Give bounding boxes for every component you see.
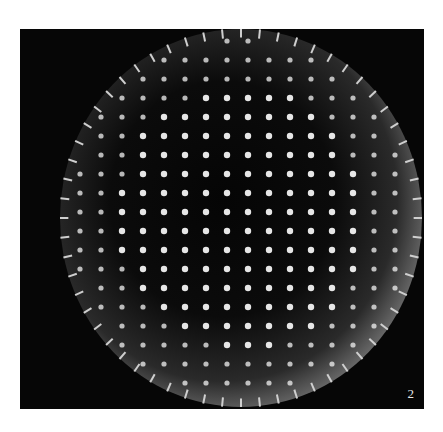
micrograph-panel: 2 [20, 29, 424, 409]
panel-label: 2 [408, 386, 415, 402]
surface-spines [60, 29, 422, 407]
